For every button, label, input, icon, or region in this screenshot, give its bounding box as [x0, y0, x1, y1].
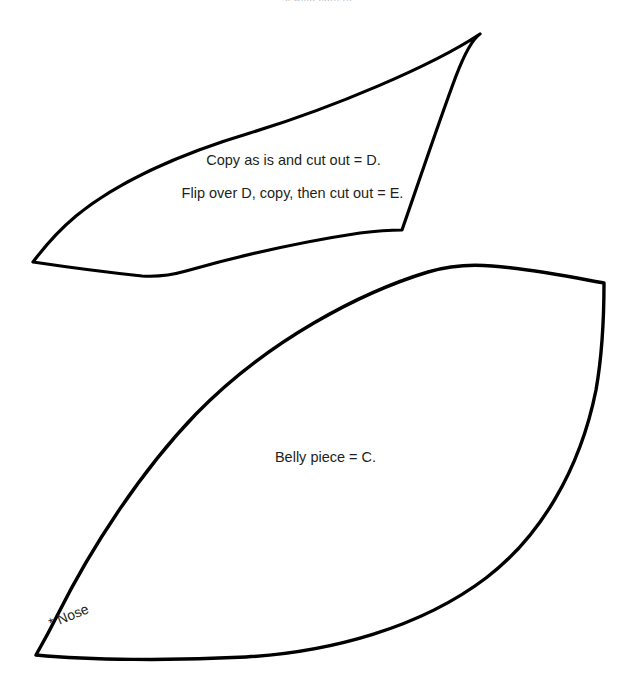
pattern-sheet: sewing pattern Copy as is and cut out = …: [0, 0, 635, 685]
label-copy-as-is: Copy as is and cut out = D.: [0, 152, 611, 168]
pattern-drawing-canvas: [0, 0, 635, 685]
label-belly-piece: Belly piece = C.: [8, 449, 635, 465]
label-flip-over: Flip over D, copy, then cut out = E.: [0, 185, 610, 201]
